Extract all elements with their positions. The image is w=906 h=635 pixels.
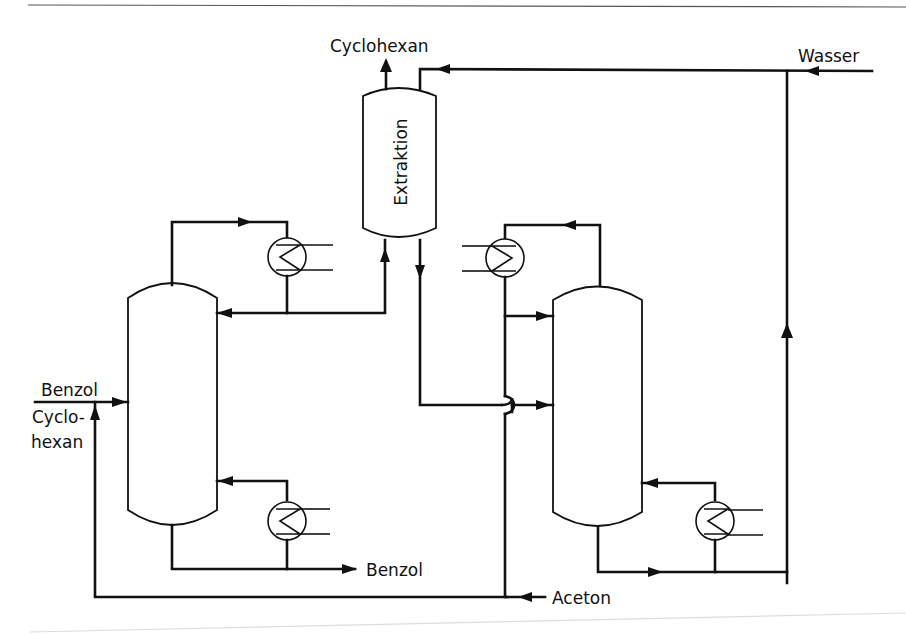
arrow-left-icon bbox=[518, 592, 532, 602]
arrow-up-icon bbox=[380, 58, 392, 72]
wasser-line bbox=[420, 69, 872, 89]
arrow-right-icon bbox=[112, 397, 127, 407]
process-flow-diagram: Extraktion Cyclohexan Wasser Benzol Cycl… bbox=[0, 0, 906, 635]
left-distillation-column bbox=[128, 283, 217, 525]
left-bottoms-line bbox=[172, 525, 355, 569]
line-crossing-hop bbox=[502, 398, 512, 412]
extraction-label: Extraktion bbox=[391, 118, 411, 205]
arrow-left-icon bbox=[643, 478, 658, 488]
arrow-left-icon bbox=[218, 476, 233, 486]
bottom-rule bbox=[30, 613, 906, 632]
arrow-right-icon bbox=[342, 564, 357, 574]
extraction-vessel: Extraktion bbox=[363, 88, 436, 237]
arrow-up-icon bbox=[380, 248, 390, 262]
right-condenser bbox=[462, 239, 524, 277]
left-condenser bbox=[268, 238, 333, 276]
arrow-left-icon bbox=[436, 64, 450, 74]
arrow-right-icon bbox=[536, 311, 551, 321]
arrow-up-icon bbox=[781, 323, 793, 338]
benzol-out-label: Benzol bbox=[366, 560, 423, 580]
top-rule bbox=[28, 5, 906, 7]
arrow-right-icon bbox=[648, 567, 663, 577]
right-distillation-column bbox=[553, 287, 642, 527]
arrow-left-icon bbox=[217, 308, 232, 318]
cyclohexan-out-label: Cyclohexan bbox=[330, 36, 429, 56]
left-reboiler bbox=[268, 502, 330, 540]
right-reboiler bbox=[696, 502, 763, 540]
arrow-up-icon bbox=[90, 405, 100, 420]
feed-label-cyclo: Cyclo- bbox=[32, 407, 85, 427]
arrow-down-icon bbox=[415, 265, 425, 279]
arrow-right-icon bbox=[536, 400, 551, 410]
feed-label-benzol: Benzol bbox=[41, 380, 98, 400]
aceton-label: Aceton bbox=[552, 588, 611, 608]
arrow-right-icon bbox=[238, 217, 252, 227]
arrow-left-icon bbox=[562, 220, 576, 230]
right-bottoms-line bbox=[598, 527, 787, 572]
wasser-label: Wasser bbox=[798, 46, 859, 66]
feed-label-hexan: hexan bbox=[31, 432, 83, 452]
arrow-left-icon bbox=[805, 66, 819, 76]
